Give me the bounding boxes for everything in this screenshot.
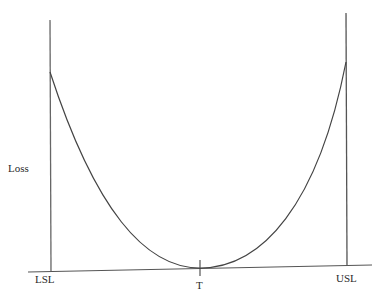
- usl-label: USL: [336, 273, 357, 284]
- target-label: T: [196, 280, 203, 291]
- usl-vertical-line: [346, 13, 347, 265]
- lsl-vertical-line: [50, 20, 51, 271]
- loss-curve: [50, 62, 346, 268]
- lsl-label: LSL: [35, 274, 55, 285]
- loss-function-diagram: [0, 0, 386, 300]
- y-axis-label-loss: Loss: [8, 163, 29, 174]
